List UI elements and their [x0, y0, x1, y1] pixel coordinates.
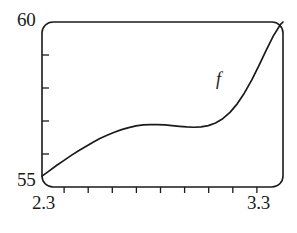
x-axis-max-label: 3.3	[247, 193, 270, 212]
y-axis-max-label: 60	[17, 10, 36, 29]
y-axis-min-label: 55	[17, 170, 36, 189]
curve-f-label: f	[216, 70, 221, 88]
x-axis-min-label: 2.3	[32, 193, 55, 212]
x-axis-ticks	[64, 187, 257, 193]
chart-figure: 60 55 2.3 3.3 f	[0, 0, 297, 233]
plot-frame	[42, 22, 283, 187]
